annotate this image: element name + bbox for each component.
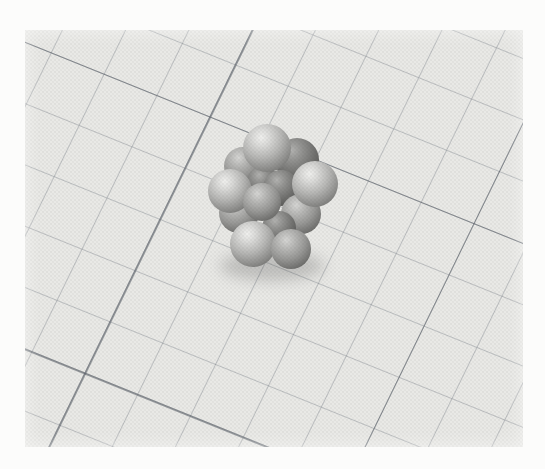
- molecular-model-photo: [25, 30, 523, 447]
- atom-sphere: [243, 124, 291, 172]
- page: { "scene": { "description": "Black-and-w…: [0, 0, 545, 469]
- atom-sphere: [243, 183, 281, 221]
- atom-sphere: [292, 161, 338, 207]
- molecule-model: [25, 30, 523, 447]
- atom-sphere: [271, 229, 311, 269]
- atom-sphere: [230, 221, 276, 267]
